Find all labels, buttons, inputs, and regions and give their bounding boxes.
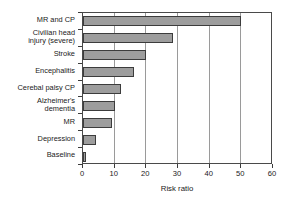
bar-slot [83,97,273,114]
category-axis-labels: MR and CPCivilian head injury (severe)St… [0,12,78,164]
plot-area [82,12,272,164]
category-label: Stroke [0,46,78,63]
y-tick-mark [78,80,82,81]
x-tick-mark [114,164,115,168]
category-label: Alzheimer's dementia [0,96,78,113]
bar [83,50,146,60]
x-tick-label: 50 [236,169,244,178]
bar [83,118,112,128]
y-tick-mark [78,164,82,165]
y-tick-mark [78,113,82,114]
bar [83,101,115,111]
category-label: Civilian head injury (severe) [0,29,78,46]
bar-slot [83,81,273,98]
bar-slot [83,13,273,30]
category-label: MR and CP [0,12,78,29]
x-axis-title: Risk ratio [82,184,272,193]
y-tick-mark [78,130,82,131]
category-label: Encephalitis [0,63,78,80]
bar-slot [83,64,273,81]
y-tick-mark [78,63,82,64]
bar [83,84,121,94]
x-tick-mark [272,164,273,168]
y-tick-mark [78,96,82,97]
x-tick-label: 30 [173,169,181,178]
x-tick-label: 40 [204,169,212,178]
category-label: Depression [0,130,78,147]
category-label: Baseline [0,147,78,164]
x-tick-label: 60 [268,169,276,178]
x-tick-mark [209,164,210,168]
bar [83,135,96,145]
bar [83,152,86,162]
bar-slot [83,114,273,131]
y-tick-mark [78,12,82,13]
x-tick-label: 0 [80,169,84,178]
x-tick-label: 20 [141,169,149,178]
bar-slot [83,47,273,64]
category-label: Cerebal palsy CP [0,80,78,97]
bar-slot [83,30,273,47]
y-tick-mark [78,29,82,30]
y-tick-mark [78,46,82,47]
bar [83,33,173,43]
x-tick-mark [177,164,178,168]
bar-slot [83,148,273,165]
bars [83,13,271,163]
x-tick-label: 10 [109,169,117,178]
bar [83,16,241,26]
x-tick-mark [82,164,83,168]
bar-slot [83,131,273,148]
category-label: MR [0,113,78,130]
y-tick-mark [78,147,82,148]
x-tick-mark [240,164,241,168]
risk-ratio-bar-chart: MR and CPCivilian head injury (severe)St… [0,0,286,204]
x-tick-mark [145,164,146,168]
bar [83,67,134,77]
